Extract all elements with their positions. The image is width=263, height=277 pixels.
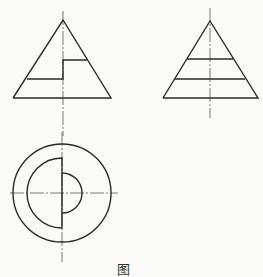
top-view: [10, 132, 118, 262]
front-view: [13, 11, 111, 136]
side-view: [163, 8, 258, 118]
figure-caption: 图: [117, 263, 130, 276]
front-cone-outline: [13, 20, 111, 98]
